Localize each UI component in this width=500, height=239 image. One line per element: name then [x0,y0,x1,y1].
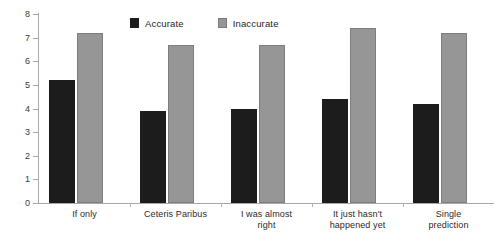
x-axis-category-label: Ceteris Paribus [130,209,221,220]
y-axis-tick-mark [33,14,38,15]
y-axis-tick-label: 0 [8,199,30,208]
x-axis-category-label: If only [39,209,130,220]
y-axis-tick-mark [33,179,38,180]
x-axis-separator-tick [221,203,222,207]
y-axis-tick-mark [33,132,38,133]
bar-accurate [231,109,257,204]
y-axis-tick-label: 1 [8,175,30,184]
y-axis-tick-mark [33,85,38,86]
bar-group [221,14,312,203]
y-axis-tick-mark [33,203,38,204]
bar-inaccurate [168,45,194,203]
x-axis-category-label: I was almostright [221,209,312,231]
x-axis-category-label: Singleprediction [403,209,494,231]
x-axis-category-label-line: right [221,220,312,231]
bar-group [130,14,221,203]
y-axis-tick-mark [33,109,38,110]
x-axis-category-label-line: It just hasn't [312,209,403,220]
bar-group [39,14,130,203]
y-axis-tick-label: 2 [8,152,30,161]
x-axis-separator-tick [403,203,404,207]
x-axis-category-label-line: happened yet [312,220,403,231]
bar-accurate [49,80,75,203]
bar-inaccurate [77,33,103,203]
x-axis-category-label-line: Ceteris Paribus [130,209,221,220]
bar-inaccurate [350,28,376,203]
y-axis-tick-mark [33,38,38,39]
x-axis-category-label: It just hasn'thappened yet [312,209,403,231]
x-axis-category-label-line: prediction [403,220,494,231]
x-axis-separator-tick [130,203,131,207]
bar-chart: Accurate Inaccurate 012345678 If onlyCet… [0,0,500,239]
x-axis-category-label-line: I was almost [221,209,312,220]
y-axis-tick-label: 7 [8,34,30,43]
y-axis-tick-label: 6 [8,57,30,66]
bar-inaccurate [441,33,467,203]
bar-accurate [413,104,439,203]
y-axis-tick-label: 5 [8,81,30,90]
x-axis-separator-tick [312,203,313,207]
y-axis-tick-mark [33,61,38,62]
y-axis-tick-label: 8 [8,10,30,19]
y-axis-tick-label: 3 [8,128,30,137]
bar-inaccurate [259,45,285,203]
x-axis-line [38,203,494,204]
bar-group [312,14,403,203]
x-axis-category-label-line: If only [39,209,130,220]
bar-group [403,14,494,203]
bar-accurate [140,111,166,203]
y-axis-tick-label: 4 [8,105,30,114]
y-axis-tick-mark [33,156,38,157]
bar-accurate [322,99,348,203]
x-axis-category-label-line: Single [403,209,494,220]
